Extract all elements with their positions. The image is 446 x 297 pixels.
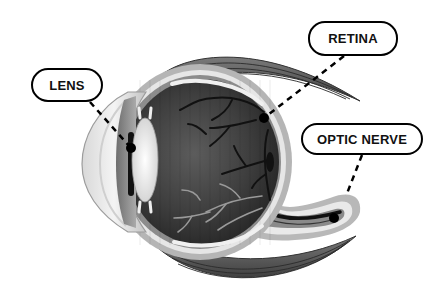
label-optic-nerve: OPTIC NERVE [301, 123, 423, 155]
label-lens: LENS [31, 68, 103, 102]
optic-disc [266, 152, 274, 172]
label-retina: RETINA [308, 21, 398, 56]
